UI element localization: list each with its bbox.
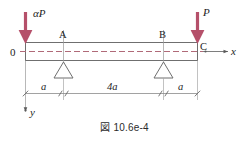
y-axis-label: y bbox=[29, 106, 35, 118]
node-label-a: A bbox=[59, 29, 67, 40]
dim-label-right: a bbox=[178, 81, 183, 92]
left-load-label: αP bbox=[33, 7, 46, 19]
origin-label: 0 bbox=[10, 46, 16, 58]
node-label-c: C bbox=[200, 41, 207, 52]
left-load-arrow bbox=[19, 12, 33, 44]
beam-diagram-figure: αP P 0 A B C x y a 4a a 図 10.6e-4 bbox=[0, 0, 249, 141]
support-a-pin bbox=[54, 62, 73, 78]
figure-caption-text: 10.6e-4 bbox=[110, 122, 148, 133]
figure-caption: 図 10.6e-4 bbox=[0, 119, 249, 134]
dim-label-left: a bbox=[41, 81, 46, 92]
x-axis-label: x bbox=[230, 45, 236, 57]
y-axis-origin-dot bbox=[24, 109, 26, 111]
left-load-arrowhead bbox=[19, 30, 33, 44]
right-load-label: P bbox=[202, 6, 210, 18]
figure-caption-mark: 図 bbox=[100, 122, 110, 133]
support-b-pin bbox=[154, 62, 173, 78]
x-axis-arrowhead bbox=[224, 50, 229, 54]
dim-label-middle: 4a bbox=[107, 81, 118, 92]
node-label-b: B bbox=[159, 29, 166, 40]
